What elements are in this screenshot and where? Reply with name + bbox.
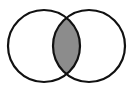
- venn-diagram: [0, 0, 134, 93]
